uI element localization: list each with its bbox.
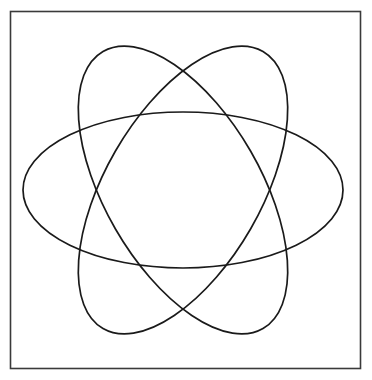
figure-root (0, 0, 372, 380)
ellipse-figure-canvas (0, 0, 372, 380)
figure-background (0, 0, 372, 380)
